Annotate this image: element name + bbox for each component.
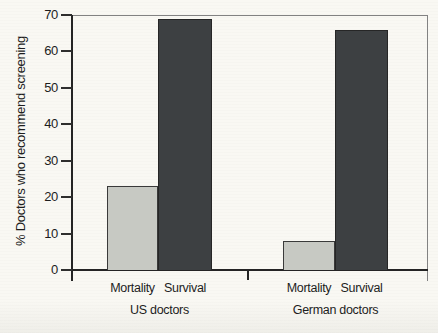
group-label-german: German doctors bbox=[293, 303, 378, 317]
y-tick-10 bbox=[61, 233, 72, 235]
y-tick-label-50: 50 bbox=[26, 80, 58, 95]
y-tick-50 bbox=[61, 87, 72, 89]
category-label-survival: Survival bbox=[340, 281, 382, 295]
doctors-screening-bar-chart: % Doctors who recommend screening 010203… bbox=[0, 0, 438, 333]
y-tick-label-10: 10 bbox=[26, 226, 58, 241]
y-tick-60 bbox=[61, 50, 72, 52]
y-axis-line bbox=[71, 15, 73, 281]
y-tick-20 bbox=[61, 196, 72, 198]
category-label-mortality: Mortality bbox=[287, 281, 332, 295]
y-tick-label-30: 30 bbox=[26, 153, 58, 168]
group-label-us: US doctors bbox=[130, 303, 189, 317]
bar-german-survival bbox=[335, 30, 388, 270]
bar-us-mortality bbox=[107, 186, 158, 270]
plot-frame-top bbox=[72, 15, 428, 16]
y-tick-label-60: 60 bbox=[26, 43, 58, 58]
bar-us-survival bbox=[158, 19, 212, 270]
bar-german-mortality bbox=[283, 241, 335, 270]
y-tick-label-40: 40 bbox=[26, 116, 58, 131]
y-axis-title: % Doctors who recommend screening bbox=[13, 36, 28, 246]
y-tick-label-0: 0 bbox=[26, 262, 58, 277]
x-axis-group-divider-tick bbox=[247, 270, 249, 280]
plot-frame-right bbox=[427, 15, 428, 281]
y-tick-70 bbox=[61, 14, 72, 16]
category-label-mortality: Mortality bbox=[110, 281, 155, 295]
category-label-survival: Survival bbox=[164, 281, 206, 295]
y-tick-label-70: 70 bbox=[26, 7, 58, 22]
y-tick-label-20: 20 bbox=[26, 189, 58, 204]
y-tick-0 bbox=[61, 269, 72, 271]
y-tick-30 bbox=[61, 160, 72, 162]
y-tick-40 bbox=[61, 123, 72, 125]
